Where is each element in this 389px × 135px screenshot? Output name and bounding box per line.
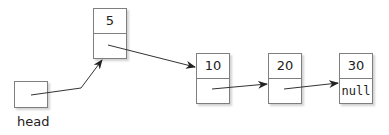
arrow-20-to-30 (284, 83, 338, 89)
arrow-5-to-10 (108, 45, 195, 67)
arrow-10-to-20 (212, 84, 267, 89)
arrow-head-to-5 (31, 60, 102, 95)
pointer-arrows (0, 0, 389, 135)
